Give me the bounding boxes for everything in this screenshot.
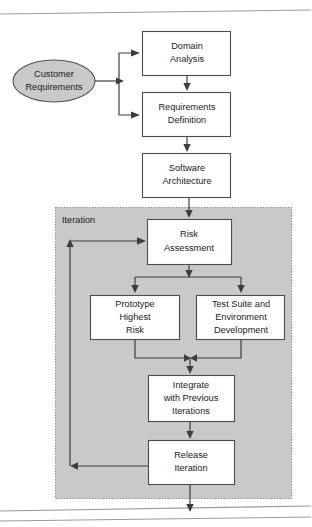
node-risk-assessment[interactable]: Risk Assessment [148,220,232,265]
edge-requirements-to-requirements-definition [119,81,140,119]
node-software-architecture-line-1: Software [169,163,205,173]
node-release-iteration[interactable]: Release Iteration [149,441,235,485]
node-software-architecture[interactable]: Software Architecture [143,154,231,198]
node-software-architecture-line-2: Architecture [162,176,211,186]
node-prototype-highest-risk-line-3: Risk [126,325,144,335]
node-prototype-highest-risk-line-1: Prototype [115,299,154,309]
edge-requirements-to-domain-analysis [95,50,140,85]
node-integrate-line-3: Iterations [172,406,210,416]
node-domain-analysis-line-1: Domain [171,41,203,51]
node-customer-requirements-line-1: Customer [34,69,74,79]
node-release-iteration-line-1: Release [174,450,208,460]
edge-domain-analysis-to-requirements-definition [183,76,190,91]
node-test-suite-line-1: Test Suite and [212,299,270,309]
iteration-region-label: Iteration [62,215,95,225]
node-prototype-highest-risk[interactable]: Prototype Highest Risk [91,296,180,340]
node-risk-assessment-line-2: Assessment [164,243,214,253]
node-domain-analysis[interactable]: Domain Analysis [143,32,231,76]
node-integrate-line-2: with Previous [163,393,219,403]
diagram-page: Iteration [0,0,312,527]
page-rule-bottom [0,506,311,511]
page-rule-bottom-2 [0,517,311,521]
node-customer-requirements-line-2: Requirements [25,82,83,92]
node-test-suite-environment-development[interactable]: Test Suite and Environment Development [197,296,285,340]
node-integrate-line-1: Integrate [173,380,209,390]
page-rule-top [0,10,311,14]
node-requirements-definition-line-2: Definition [168,115,206,125]
node-customer-requirements[interactable]: Customer Requirements [13,60,95,102]
process-flow-diagram: Iteration [0,0,312,527]
node-test-suite-line-3: Development [214,325,269,335]
node-test-suite-line-2: Environment [215,312,267,322]
node-requirements-definition[interactable]: Requirements Definition [143,93,231,137]
node-prototype-highest-risk-line-2: Highest [119,312,151,322]
node-requirements-definition-line-1: Requirements [158,102,216,112]
node-release-iteration-line-2: Iteration [174,463,207,473]
edge-requirements-definition-to-software-architecture [183,137,190,152]
node-risk-assessment-line-1: Risk [180,229,198,239]
node-integrate-with-previous-iterations[interactable]: Integrate with Previous Iterations [149,376,235,422]
node-domain-analysis-line-2: Analysis [170,54,205,64]
